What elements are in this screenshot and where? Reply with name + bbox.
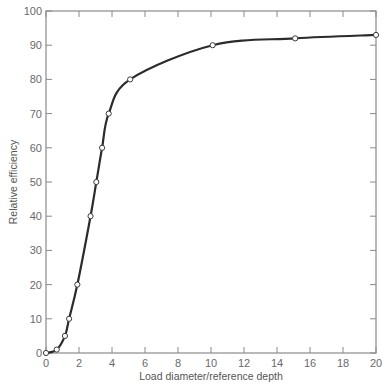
data-point-marker	[210, 43, 215, 48]
x-tick-label: 16	[304, 357, 316, 369]
y-tick-label: 100	[24, 5, 42, 17]
data-point-marker	[75, 282, 80, 287]
y-tick-label: 20	[30, 279, 42, 291]
x-tick-label: 10	[205, 357, 217, 369]
y-tick-label: 40	[30, 210, 42, 222]
x-tick-label: 8	[175, 357, 181, 369]
x-tick-label: 20	[370, 357, 382, 369]
data-point-marker	[100, 145, 105, 150]
data-point-marker	[128, 77, 133, 82]
x-tick-labels: 02468101214161820	[43, 357, 382, 369]
x-axis-label: Load diameter/reference depth	[139, 370, 283, 382]
data-point-marker	[54, 347, 59, 352]
data-point-marker	[293, 36, 298, 41]
x-tick-label: 12	[238, 357, 250, 369]
y-tick-label: 80	[30, 73, 42, 85]
y-tick-label: 60	[30, 142, 42, 154]
x-tick-label: 2	[76, 357, 82, 369]
data-point-marker	[94, 179, 99, 184]
data-point-marker	[67, 316, 72, 321]
x-tick-label: 18	[337, 357, 349, 369]
data-point-marker	[43, 350, 48, 355]
y-tick-label: 90	[30, 39, 42, 51]
x-tick-label: 4	[109, 357, 115, 369]
data-point-marker	[88, 214, 93, 219]
y-tick-label: 50	[30, 176, 42, 188]
y-tick-label: 30	[30, 244, 42, 256]
x-tick-label: 14	[271, 357, 283, 369]
y-tick-label: 70	[30, 108, 42, 120]
y-tick-label: 10	[30, 313, 42, 325]
x-tick-label: 0	[43, 357, 49, 369]
efficiency-chart: 02468101214161820 0102030405060708090100…	[0, 0, 386, 389]
y-tick-labels: 0102030405060708090100	[24, 5, 42, 359]
data-point-marker	[106, 111, 111, 116]
data-point-marker	[373, 32, 378, 37]
y-axis-label: Relative efficiency	[7, 139, 19, 224]
efficiency-curve	[46, 35, 376, 353]
y-tick-label: 0	[36, 347, 42, 359]
data-point-marker	[62, 333, 67, 338]
x-tick-label: 6	[142, 357, 148, 369]
